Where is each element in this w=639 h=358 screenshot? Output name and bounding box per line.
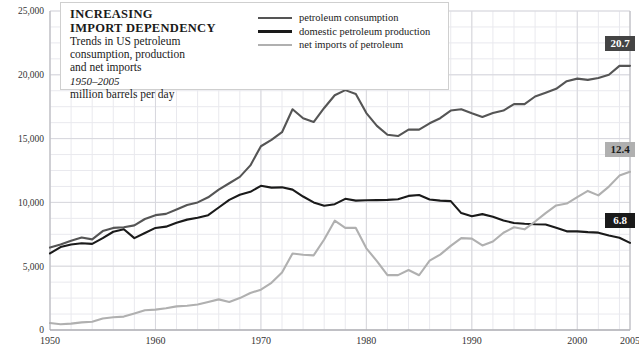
- units-label: million barrels per day: [70, 88, 260, 101]
- svg-text:20,000: 20,000: [18, 70, 44, 80]
- legend-swatch-line: [258, 17, 292, 19]
- subtitle-line-1: Trends in US petroleum: [70, 35, 260, 48]
- svg-text:2000: 2000: [567, 335, 587, 346]
- svg-text:0: 0: [39, 325, 44, 335]
- svg-text:5,000: 5,000: [23, 262, 45, 272]
- svg-text:1960: 1960: [145, 335, 165, 346]
- legend-item-1: domestic petroleum production: [258, 25, 430, 39]
- legend-label: domestic petroleum production: [299, 26, 430, 37]
- data-series-lines: [50, 66, 630, 324]
- chart-legend: petroleum consumptiondomestic petroleum …: [258, 11, 430, 52]
- legend-label: petroleum consumption: [299, 12, 398, 23]
- legend-item-2: net imports of petroleum: [258, 38, 430, 52]
- title-line-1: INCREASING: [70, 8, 260, 22]
- legend-label: net imports of petroleum: [299, 39, 403, 50]
- title-block: INCREASING IMPORT DEPENDENCY Trends in U…: [70, 8, 260, 101]
- legend-swatch-line: [258, 30, 292, 33]
- svg-text:1980: 1980: [356, 335, 376, 346]
- svg-text:15,000: 15,000: [18, 134, 44, 144]
- svg-text:1970: 1970: [251, 335, 271, 346]
- legend-item-0: petroleum consumption: [258, 11, 430, 25]
- end-value-badge-20-7: 20.7: [605, 36, 635, 51]
- svg-text:10,000: 10,000: [18, 198, 44, 208]
- title-line-2: IMPORT DEPENDENCY: [70, 22, 260, 36]
- x-axis-tick-labels: 1950196019701980199020002005: [40, 335, 639, 346]
- subtitle-line-3: and net imports: [70, 61, 260, 74]
- svg-text:1990: 1990: [462, 335, 482, 346]
- svg-text:1950: 1950: [40, 335, 60, 346]
- chart-container: 05,00010,00015,00020,00025,000 195019601…: [0, 0, 639, 358]
- end-value-badge-12-4: 12.4: [605, 142, 635, 157]
- svg-text:2005: 2005: [620, 335, 639, 346]
- svg-text:25,000: 25,000: [18, 6, 44, 16]
- subtitle-line-2: consumption, production: [70, 48, 260, 61]
- legend-swatch-line: [258, 44, 292, 46]
- period-range: 1950–2005: [70, 75, 260, 88]
- y-axis-tick-labels: 05,00010,00015,00020,00025,000: [18, 6, 44, 335]
- end-value-badge-6-8: 6.8: [605, 213, 635, 228]
